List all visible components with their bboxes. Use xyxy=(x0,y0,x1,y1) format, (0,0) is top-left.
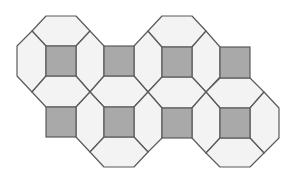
dark-square-2 xyxy=(104,46,134,76)
tiling-diagram xyxy=(0,0,293,185)
dark-square-4 xyxy=(220,47,250,78)
dark-square-6 xyxy=(104,107,134,137)
dark-square-7 xyxy=(162,108,192,138)
dark-square-1 xyxy=(46,46,76,76)
dark-square-8 xyxy=(220,108,250,138)
dark-square-3 xyxy=(162,47,192,77)
dark-square-5 xyxy=(46,107,76,137)
tiling-svg xyxy=(0,0,293,185)
